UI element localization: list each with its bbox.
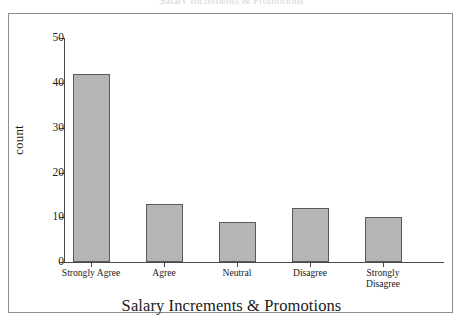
clipped-figure-title: Salary Increments & Promotions [0, 0, 463, 4]
x-label-line: Strongly [338, 268, 428, 279]
x-label-line: Disagree [338, 279, 428, 290]
bar-agree[interactable] [146, 204, 183, 262]
x-axis-line [64, 262, 444, 263]
x-label-strongly-disagree: Strongly Disagree [338, 268, 428, 289]
y-tick-10: 10 [9, 217, 64, 218]
y-axis-title: count [11, 110, 27, 170]
y-tick-0: 0 [9, 262, 64, 263]
y-axis-line [64, 38, 65, 263]
y-tick-label: 50 [20, 32, 64, 44]
x-axis-title: Salary Increments & Promotions [9, 296, 454, 316]
y-tick-label: 10 [20, 211, 64, 223]
bar-chart-plot-area: 0 10 20 30 40 50 count [9, 14, 454, 314]
bar-disagree[interactable] [292, 208, 329, 262]
bar-strongly-agree[interactable] [73, 74, 110, 262]
bar-strongly-disagree[interactable] [365, 217, 402, 262]
y-tick-label: 40 [20, 77, 64, 89]
y-tick-40: 40 [9, 83, 64, 84]
y-tick-50: 50 [9, 38, 64, 39]
figure-frame: 0 10 20 30 40 50 count [8, 13, 453, 313]
y-tick-label: 0 [20, 256, 64, 268]
y-tick-20: 20 [9, 173, 64, 174]
bar-neutral[interactable] [219, 222, 256, 262]
